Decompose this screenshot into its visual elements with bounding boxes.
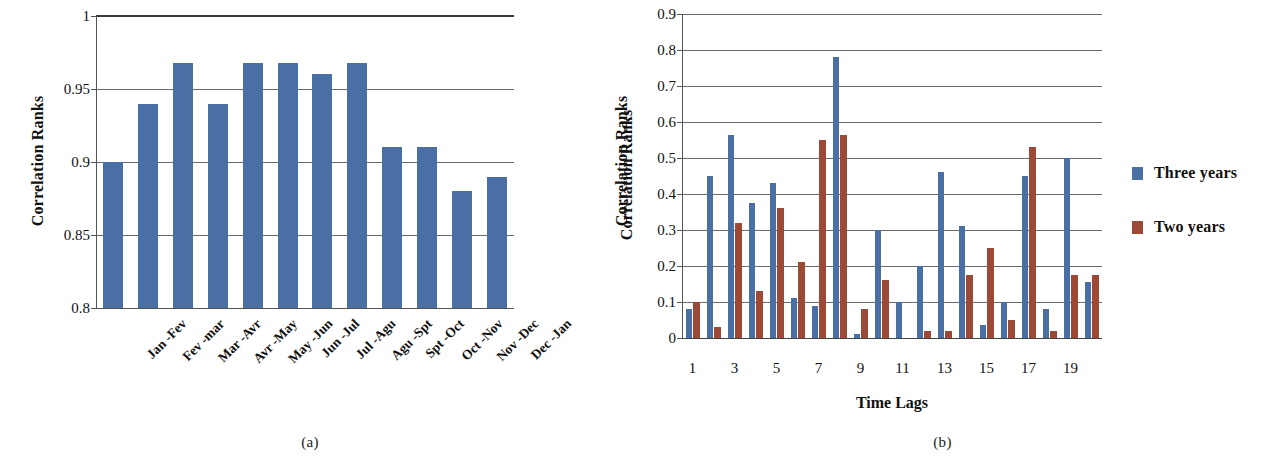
chart-a-bar [243, 63, 263, 308]
chart-b-x-tick-label: 7 [815, 360, 823, 377]
chart-b-y-tick-label: 0 [669, 331, 677, 346]
chart-b-bar [735, 223, 742, 338]
legend-swatch-icon [1132, 167, 1143, 180]
chart-b-bar [1022, 176, 1029, 338]
chart-a-bar [452, 191, 472, 308]
chart-a-bar [347, 63, 367, 308]
chart-a-y-tick-label: 0.8 [71, 301, 90, 316]
chart-b-bar [924, 331, 931, 338]
chart-b-y-tick-mark [677, 50, 682, 51]
chart-a-gridline [96, 308, 514, 309]
chart-b-bar [728, 135, 735, 338]
chart-b-bar [693, 302, 700, 338]
chart-b-caption: (b) [620, 434, 1265, 451]
chart-b-bar [1029, 147, 1036, 338]
chart-b-bar [980, 325, 987, 338]
chart-b-y-tick-label: 0.2 [657, 259, 676, 274]
chart-b-bar [1092, 275, 1099, 338]
chart-b-legend-item[interactable]: Two years [1132, 218, 1225, 236]
chart-b-bar [987, 248, 994, 338]
chart-panel-b: Correlation Ranks 00.10.20.30.40.50.60.7… [620, 0, 1265, 470]
chart-a-bar [417, 147, 437, 308]
chart-b-bar [938, 172, 945, 338]
chart-b-gridline [682, 122, 1102, 123]
chart-a-bar [103, 162, 123, 308]
chart-b-legend-label: Two years [1154, 218, 1225, 236]
chart-b-bar [1050, 331, 1057, 338]
chart-b-gridline [682, 266, 1102, 267]
chart-b-y-tick-mark [677, 338, 682, 339]
chart-b-y-tick-mark [677, 158, 682, 159]
chart-b-legend: Three yearsTwo years [1132, 164, 1265, 264]
chart-a-y-tick-mark [91, 235, 96, 236]
chart-b-gridline [682, 338, 1102, 339]
chart-b-y-tick-mark [677, 122, 682, 123]
chart-b-gridline [682, 50, 1102, 51]
chart-a-plot-area: 0.80.850.90.951 [96, 16, 514, 308]
chart-b-y-axis-line [682, 14, 683, 338]
figure-container: Correlation Ranks Correlation Ranks 0.80… [0, 0, 1265, 470]
chart-b-bar [686, 309, 693, 338]
chart-b-x-tick-label: 15 [979, 360, 994, 377]
chart-b-y-tick-mark [677, 14, 682, 15]
chart-a-bar [278, 63, 298, 308]
chart-a-bar [138, 104, 158, 308]
chart-b-bar [1043, 309, 1050, 338]
chart-b-bar [945, 331, 952, 338]
chart-a-y-axis-line [96, 16, 97, 308]
chart-b-x-tick-label: 11 [895, 360, 909, 377]
chart-b-x-tick-label: 19 [1063, 360, 1078, 377]
chart-b-x-axis-label: Time Lags [682, 394, 1102, 412]
chart-b-bar [1085, 282, 1092, 338]
chart-b-y-tick-label: 0.4 [657, 187, 676, 202]
chart-b-bar [959, 226, 966, 338]
chart-b-x-tick-label: 17 [1021, 360, 1036, 377]
chart-b-bar [1008, 320, 1015, 338]
chart-b-legend-label: Three years [1154, 164, 1237, 182]
chart-b-bar [1064, 158, 1071, 338]
chart-b-gridline [682, 86, 1102, 87]
chart-b-bar [1071, 275, 1078, 338]
chart-b-y-tick-mark [677, 266, 682, 267]
chart-b-y-tick-mark [677, 230, 682, 231]
chart-b-x-tick-label: 3 [731, 360, 739, 377]
chart-b-gridline [682, 14, 1102, 15]
chart-a-bar [173, 63, 193, 308]
chart-a-y-axis-label: Correlation Ranks [29, 61, 47, 261]
chart-b-bar [819, 140, 826, 338]
chart-b-bar [812, 306, 819, 338]
chart-a-gridline [96, 15, 514, 17]
chart-b-legend-item[interactable]: Three years [1132, 164, 1237, 182]
chart-b-x-tick-label: 13 [937, 360, 952, 377]
chart-a-gridline [96, 89, 514, 90]
chart-b-bar [966, 275, 973, 338]
chart-b-gridline [682, 302, 1102, 303]
chart-b-y-tick-mark [677, 302, 682, 303]
chart-b-bar [714, 327, 721, 338]
chart-a-y-tick-label: 0.9 [71, 155, 90, 170]
chart-b-x-tick-label: 1 [689, 360, 697, 377]
chart-b-bar [833, 57, 840, 338]
chart-b-bar [875, 230, 882, 338]
chart-b-bar [749, 203, 756, 338]
chart-a-bar [487, 177, 507, 308]
chart-b-bar [707, 176, 714, 338]
chart-a-y-tick-mark [91, 16, 96, 17]
chart-b-y-tick-label: 0.8 [657, 43, 676, 58]
chart-a-y-tick-label: 0.95 [64, 82, 90, 97]
chart-b-bar [791, 298, 798, 338]
chart-b-y-tick-label: 0.6 [657, 115, 676, 130]
chart-a-bar [312, 74, 332, 308]
chart-a-y-tick-mark [91, 89, 96, 90]
chart-b-y-tick-label: 0.1 [657, 295, 676, 310]
chart-a-gridline [96, 162, 514, 163]
chart-a-bar [382, 147, 402, 308]
chart-b-gridline [682, 158, 1102, 159]
legend-swatch-icon [1132, 221, 1143, 234]
chart-a-y-tick-label: 1 [83, 9, 91, 24]
chart-b-y-tick-mark [677, 194, 682, 195]
chart-b-bar [882, 280, 889, 338]
chart-b-y-tick-label: 0.7 [657, 79, 676, 94]
chart-b-y-tick-mark [677, 86, 682, 87]
chart-b-y-tick-label: 0.9 [657, 7, 676, 22]
